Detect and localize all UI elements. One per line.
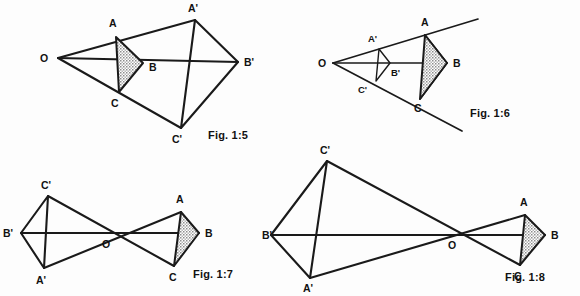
label-c: C [111, 97, 119, 109]
figure-1-8: O A B C A' B' C' Fig. 1:8 [262, 144, 559, 294]
label-o: O [318, 57, 326, 69]
label-o: O [448, 239, 456, 251]
caption-fig-1-8: Fig. 1:8 [505, 271, 545, 283]
label-a: A [109, 17, 117, 29]
label-c: C [414, 102, 422, 114]
label-b: B [149, 61, 157, 73]
label-a-prime: A' [368, 33, 377, 44]
object-triangle-abc-shaded [420, 35, 447, 99]
figure-1-6: O A B C A' B' C' Fig. 1:6 [318, 16, 510, 131]
label-a: A [520, 196, 528, 208]
label-c-prime: C' [320, 144, 330, 156]
ray-o-b-bprime [58, 58, 238, 62]
label-b: B [551, 229, 559, 241]
caption-fig-1-5: Fig. 1:5 [208, 129, 248, 141]
object-triangle-abc-shaded [116, 37, 143, 92]
label-b-prime: B' [244, 56, 254, 68]
label-o: O [40, 52, 48, 64]
figure-sheet: O A B C A' B' C' Fig. 1:5 O A B C [0, 0, 580, 296]
line-c-o-cprime [327, 161, 520, 265]
label-a-prime: A' [188, 2, 198, 14]
figure-1-5: O A B C A' B' C' Fig. 1:5 [40, 2, 254, 145]
caption-fig-1-7: Fig. 1:7 [193, 268, 233, 280]
image-triangle-a-b-c-prime [376, 49, 390, 81]
object-triangle-abc-shaded [174, 212, 199, 266]
figure-1-7: O A B C A' B' C' Fig. 1:7 [3, 179, 233, 286]
label-a-prime: A' [303, 282, 313, 294]
label-c-prime: C' [358, 84, 367, 95]
object-triangle-abc-shaded [520, 215, 545, 265]
label-b: B [453, 57, 461, 69]
line-c-o-cprime [48, 196, 174, 266]
line-a-o-aprime [310, 215, 525, 278]
label-c-prime: C' [172, 133, 182, 145]
label-b-prime: B' [262, 229, 272, 241]
label-a-prime: A' [36, 274, 46, 286]
label-a: A [421, 16, 429, 28]
label-o: O [102, 238, 110, 250]
image-triangle-a-b-c-prime [181, 20, 238, 128]
label-b-prime: B' [391, 67, 400, 78]
label-c: C [169, 271, 177, 283]
image-triangle-a-b-c-prime [271, 161, 327, 278]
label-b-prime: B' [3, 227, 13, 239]
label-b: B [205, 227, 213, 239]
caption-fig-1-6: Fig. 1:6 [470, 107, 510, 119]
label-a: A [176, 193, 184, 205]
geometry-diagram-canvas: O A B C A' B' C' Fig. 1:5 O A B C [0, 0, 580, 296]
label-c-prime: C' [41, 179, 51, 191]
